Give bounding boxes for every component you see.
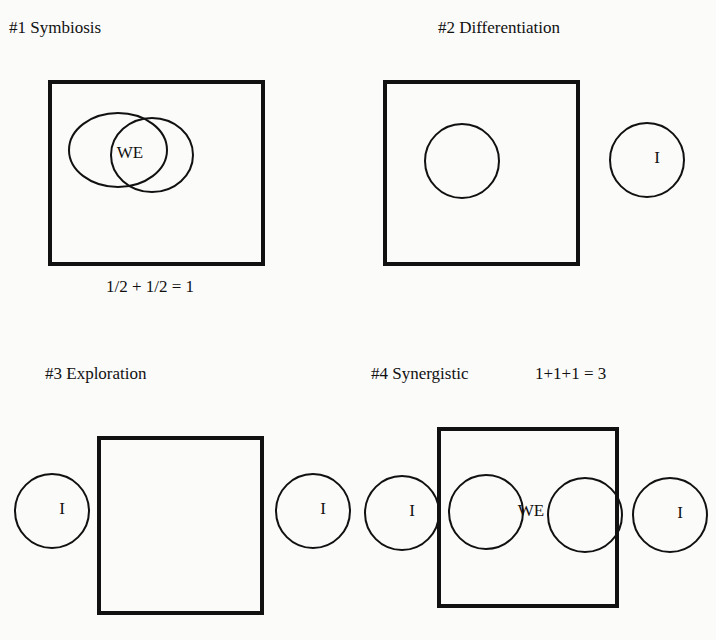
group-box xyxy=(385,82,578,264)
individual-circle xyxy=(633,478,707,552)
panel-symbiosis xyxy=(50,82,263,264)
panel-title-exploration: #3 Exploration xyxy=(45,364,147,384)
individual-circle xyxy=(425,124,499,198)
individual-circle xyxy=(548,478,622,552)
we-label: WE xyxy=(518,501,544,521)
individual-circle xyxy=(365,476,439,550)
circle-label: I xyxy=(320,499,326,519)
we-label: WE xyxy=(117,143,143,163)
group-box xyxy=(99,438,262,613)
individual-circle xyxy=(610,123,684,197)
circle-label: I xyxy=(59,499,65,519)
diagram-canvas: #1 Symbiosis 1/2 + 1/2 = 1 #2 Differenti… xyxy=(0,0,716,640)
individual-circle xyxy=(449,475,523,549)
individual-circle xyxy=(15,474,89,548)
diagram-shapes xyxy=(0,0,716,640)
circle-label: I xyxy=(654,148,660,168)
panel-exploration xyxy=(15,438,350,613)
panel-differentiation xyxy=(385,82,684,264)
equation-symbiosis: 1/2 + 1/2 = 1 xyxy=(106,277,194,297)
panel-title-symbiosis: #1 Symbiosis xyxy=(9,18,101,38)
panel-title-synergistic: #4 Synergistic xyxy=(371,364,468,384)
equation-synergistic: 1+1+1 = 3 xyxy=(535,364,606,384)
circle-label: I xyxy=(677,503,683,523)
panel-title-differentiation: #2 Differentiation xyxy=(438,18,560,38)
individual-circle xyxy=(276,474,350,548)
circle-label: I xyxy=(409,501,415,521)
